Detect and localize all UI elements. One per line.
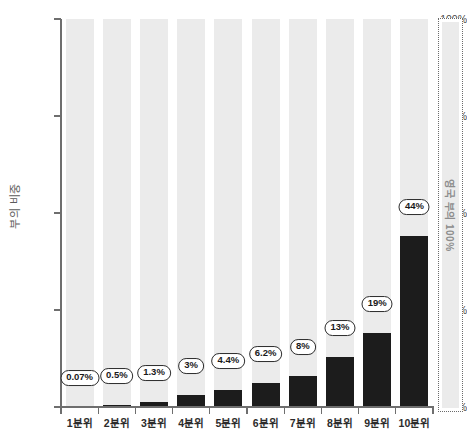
bar-track (177, 19, 205, 407)
bar-column[interactable]: 13% (326, 19, 354, 407)
bar-value-label: 0.07% (60, 370, 99, 386)
bar-column[interactable]: 0.5% (103, 19, 131, 407)
x-tick-label-1: 1분위 (61, 415, 98, 430)
x-tick-label-3: 3분위 (135, 415, 172, 430)
y-axis-title-text: 부의 비중 (6, 183, 22, 229)
bar-value-label: 44% (399, 199, 430, 215)
bar-track (140, 19, 168, 407)
plot-area: 0.07%0.5%1.3%3%4.4%6.2%8%13%19%44% (61, 19, 433, 407)
bar-value-label: 13% (324, 320, 355, 336)
bar-value-label: 4.4% (212, 353, 246, 369)
bar-column[interactable]: 3% (177, 19, 205, 407)
bar-column[interactable]: 8% (289, 19, 317, 407)
x-tick-label-6: 6분위 (247, 415, 284, 430)
bar-value-label: 3% (178, 358, 204, 374)
bar-value-label: 19% (362, 296, 393, 312)
bar-value (363, 333, 391, 407)
x-tick (246, 407, 247, 414)
bar-value-label: 1.3% (137, 365, 171, 381)
bar-column[interactable]: 44% (400, 19, 428, 407)
bar-column[interactable]: 1.3% (140, 19, 168, 407)
bar-value-label: 6.2% (249, 346, 283, 362)
x-tick-label-9: 9분위 (359, 415, 396, 430)
bar-column[interactable]: 0.07% (66, 19, 94, 407)
x-tick (172, 407, 173, 414)
x-tick (98, 407, 99, 414)
bar-track (326, 19, 354, 407)
bar-column[interactable]: 4.4% (214, 19, 242, 407)
bar-column[interactable]: 6.2% (252, 19, 280, 407)
bar-track (214, 19, 242, 407)
bar-column[interactable]: 19% (363, 19, 391, 407)
wealth-distribution-chart: 부의 비중 0%25%50%75%100% 0.07%0.5%1.3%3%4.4… (0, 0, 467, 439)
x-tick (209, 407, 210, 414)
x-tick-label-8: 8분위 (321, 415, 358, 430)
bar-track (103, 19, 131, 407)
x-tick-label-5: 5분위 (210, 415, 247, 430)
total-wealth-annotation-box (438, 18, 463, 412)
bar-value (400, 236, 428, 407)
x-tick-label-10: 10분위 (396, 415, 433, 430)
x-tick (432, 407, 433, 414)
x-tick (395, 407, 396, 414)
x-tick-label-2: 2분위 (98, 415, 135, 430)
bar-value (214, 390, 242, 407)
bar-value (289, 376, 317, 407)
bar-value-label: 0.5% (100, 368, 134, 384)
x-tick (135, 407, 136, 414)
x-tick-label-4: 4분위 (173, 415, 210, 430)
bar-value-label: 8% (290, 339, 316, 355)
bar-value (252, 383, 280, 407)
x-tick (60, 407, 61, 414)
x-tick (321, 407, 322, 414)
x-tick (284, 407, 285, 414)
y-axis-title: 부의 비중 (2, 0, 26, 412)
bar-track (66, 19, 94, 407)
bar-value (326, 357, 354, 407)
annotation-box-fill (442, 22, 459, 408)
x-tick-label-7: 7분위 (284, 415, 321, 430)
x-tick (358, 407, 359, 414)
